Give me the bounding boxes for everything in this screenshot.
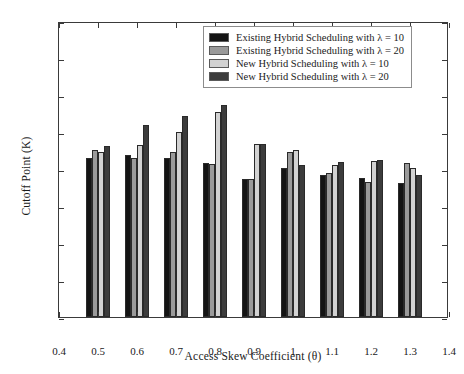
y-axis-tick-mark [59, 282, 64, 283]
y-axis-label: Cutoff Point (K) [20, 76, 32, 276]
x-axis-tick-mark [59, 312, 60, 317]
bar [143, 125, 149, 317]
x-axis-tick-mark [449, 312, 450, 317]
y-axis-tick-mark [59, 60, 64, 61]
bar [416, 175, 422, 317]
y-axis-tick-mark-right [442, 171, 447, 172]
legend-swatch-icon [209, 72, 229, 81]
x-axis-tick-label: 0.5 [78, 345, 118, 357]
x-axis-tick-mark [254, 312, 255, 317]
x-axis-tick-label: 1 [273, 345, 313, 357]
x-axis-tick-mark-top [137, 23, 138, 28]
x-axis-tick-mark [215, 312, 216, 317]
x-axis-tick-mark-top [98, 23, 99, 28]
x-axis-tick-mark-top [59, 23, 60, 28]
y-axis-tick-mark [59, 208, 64, 209]
x-axis-tick-mark [137, 312, 138, 317]
x-axis-tick-label: 0.7 [156, 345, 196, 357]
y-axis-tick-mark-right [442, 208, 447, 209]
y-axis-tick-mark-right [442, 245, 447, 246]
legend-label: New Hybrid Scheduling with λ = 20 [236, 70, 389, 83]
x-axis-tick-mark-top [449, 23, 450, 28]
y-axis-tick-mark-right [442, 282, 447, 283]
y-axis-tick-mark [59, 319, 64, 320]
legend-swatch-icon [209, 59, 229, 68]
bar-chart-figure: Cutoff Point (K) Access Skew Coefficient… [0, 0, 464, 374]
y-axis-tick-mark [59, 134, 64, 135]
x-axis-tick-label: 1.3 [390, 345, 430, 357]
y-axis-tick-mark [59, 171, 64, 172]
legend-label: Existing Hybrid Scheduling with λ = 10 [236, 31, 404, 44]
bar [182, 116, 188, 317]
x-axis-tick-mark [293, 312, 294, 317]
bar [104, 146, 110, 317]
legend-swatch-icon [209, 33, 229, 42]
chart-legend: Existing Hybrid Scheduling with λ = 10Ex… [203, 26, 412, 88]
legend-item: Existing Hybrid Scheduling with λ = 10 [209, 31, 404, 44]
legend-label: New Hybrid Scheduling with λ = 10 [236, 57, 389, 70]
bar [221, 105, 227, 317]
x-axis-tick-mark [371, 312, 372, 317]
bar [338, 162, 344, 317]
x-axis-tick-label: 0.9 [234, 345, 274, 357]
x-axis-tick-mark-top [176, 23, 177, 28]
y-axis-tick-mark-right [442, 60, 447, 61]
legend-swatch-icon [209, 46, 229, 55]
y-axis-tick-mark-right [442, 97, 447, 98]
y-axis-tick-mark [59, 245, 64, 246]
legend-label: Existing Hybrid Scheduling with λ = 20 [236, 44, 404, 57]
bar [260, 144, 266, 317]
x-axis-tick-label: 0.6 [117, 345, 157, 357]
x-axis-tick-label: 1.4 [429, 345, 464, 357]
y-axis-tick-mark [59, 97, 64, 98]
x-axis-tick-mark [332, 312, 333, 317]
x-axis-tick-mark [410, 312, 411, 317]
legend-item: New Hybrid Scheduling with λ = 20 [209, 70, 404, 83]
x-axis-tick-label: 0.8 [195, 345, 235, 357]
x-axis-tick-mark [176, 312, 177, 317]
x-axis-tick-mark [98, 312, 99, 317]
x-axis-tick-label: 0.4 [39, 345, 79, 357]
x-axis-tick-label: 1.2 [351, 345, 391, 357]
y-axis-tick-mark-right [442, 134, 447, 135]
y-axis-tick-mark-right [442, 23, 447, 24]
legend-item: New Hybrid Scheduling with λ = 10 [209, 57, 404, 70]
x-axis-tick-label: 1.1 [312, 345, 352, 357]
y-axis-tick-mark-right [442, 319, 447, 320]
bar [299, 165, 305, 317]
bar [377, 160, 383, 317]
legend-item: Existing Hybrid Scheduling with λ = 20 [209, 44, 404, 57]
